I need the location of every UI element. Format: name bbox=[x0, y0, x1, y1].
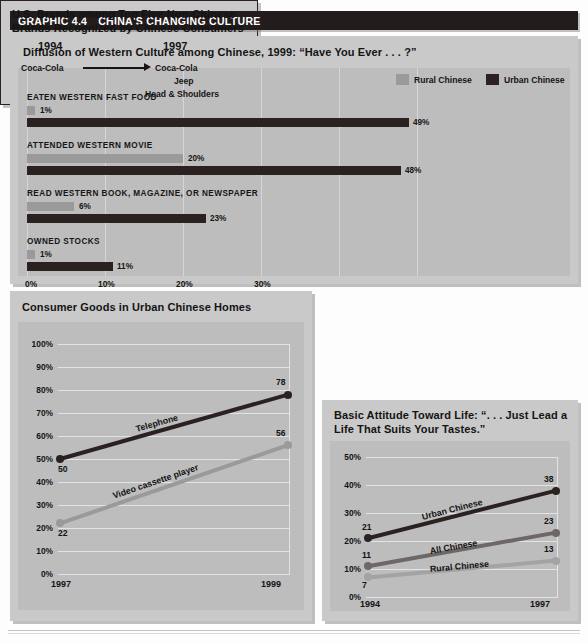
value-rural-1994: 7 bbox=[362, 580, 367, 590]
bar-category-label: OWNED STOCKS bbox=[27, 237, 100, 246]
point-telephone-start bbox=[56, 455, 64, 463]
point-telephone-end bbox=[284, 391, 292, 399]
consumer-goods-panel: Consumer Goods in Urban Chinese Homes 10… bbox=[10, 291, 312, 621]
bar-value-urban: 49% bbox=[413, 118, 429, 127]
footer-rule bbox=[8, 630, 580, 631]
bar-urban bbox=[27, 166, 401, 175]
bar-value-urban: 23% bbox=[210, 214, 226, 223]
legend-item-rural: Rural Chinese bbox=[396, 74, 472, 85]
xtick-1999: 1999 bbox=[261, 579, 281, 589]
value-urban-1994: 21 bbox=[362, 522, 372, 532]
consumer-goods-title: Consumer Goods in Urban Chinese Homes bbox=[22, 301, 251, 313]
brands-year-1997: 1997 bbox=[163, 40, 187, 52]
xtick-1997: 1997 bbox=[51, 579, 71, 589]
point-rural-1997 bbox=[552, 557, 560, 565]
arrow-line bbox=[83, 67, 145, 69]
attitude-panel: Basic Attitude Toward Life: “. . . Just … bbox=[322, 400, 578, 621]
xtick-0: 0% bbox=[25, 279, 37, 289]
brands-year-1994: 1994 bbox=[38, 40, 62, 52]
xtick-1997: 1997 bbox=[530, 599, 550, 609]
consumer-goods-plot-area: 100% 90% 80% 70% 60% 50% 40% 30% 20% 10%… bbox=[18, 322, 304, 610]
bar-urban bbox=[27, 262, 113, 271]
bar-rural bbox=[27, 106, 35, 115]
value-urban-1997: 38 bbox=[544, 474, 554, 484]
point-urban-1997 bbox=[552, 487, 560, 495]
value-vcp-1999: 56 bbox=[276, 428, 286, 438]
infographic-page: GRAPHIC 4.4 CHINA'S CHANGING CULTURE Dif… bbox=[0, 0, 588, 642]
line-telephone bbox=[60, 395, 288, 459]
bar-category-label: EATEN WESTERN FAST FOOD bbox=[27, 93, 157, 102]
bar-category-label: READ WESTERN BOOK, MAGAZINE, OR NEWSPAPE… bbox=[27, 189, 258, 198]
attitude-plot-area: 50% 40% 30% 20% 10% 0% 21 38 11 23 bbox=[330, 441, 570, 611]
value-telephone-1999: 78 bbox=[276, 377, 286, 387]
xtick-1994: 1994 bbox=[360, 599, 380, 609]
brand-right-head-and-shoulders: Head & Shoulders bbox=[145, 89, 219, 99]
bar-value-rural: 1% bbox=[40, 250, 52, 259]
arrow-head-icon bbox=[144, 63, 151, 71]
value-all-1994: 11 bbox=[362, 550, 371, 560]
legend-label-urban: Urban Chinese bbox=[504, 75, 565, 85]
brand-left-coca-cola: Coca-Cola bbox=[21, 63, 64, 73]
diffusion-chart-panel: Diffusion of Western Culture among Chine… bbox=[10, 36, 578, 284]
bar-value-rural: 20% bbox=[188, 154, 204, 163]
line-video-cassette-player bbox=[60, 445, 288, 523]
diffusion-plot-area: Rural Chinese Urban Chinese EATEN WESTER… bbox=[18, 68, 570, 276]
brand-right-coca-cola: Coca-Cola bbox=[155, 63, 198, 73]
brand-right-jeep: Jeep bbox=[174, 76, 194, 86]
bar-urban bbox=[27, 214, 206, 223]
xtick-30: 30% bbox=[254, 279, 271, 289]
value-all-1997: 23 bbox=[544, 516, 554, 526]
diffusion-chart-title: Diffusion of Western Culture among Chine… bbox=[23, 46, 417, 58]
bar-category-label: ATTENDED WESTERN MOVIE bbox=[27, 141, 153, 150]
bar-value-urban: 11% bbox=[117, 262, 133, 271]
bar-value-rural: 6% bbox=[79, 202, 91, 211]
bar-rural bbox=[27, 154, 183, 163]
bar-urban bbox=[27, 118, 409, 127]
point-all-1997 bbox=[552, 529, 560, 537]
bar-value-urban: 48% bbox=[405, 166, 421, 175]
xtick-10: 10% bbox=[98, 279, 115, 289]
footer-rule-secondary bbox=[8, 633, 580, 634]
legend-label-rural: Rural Chinese bbox=[414, 75, 472, 85]
us-brands-title: U.S. Brands among Top Five Non-Chinese B… bbox=[12, 8, 248, 35]
value-vcp-1997: 22 bbox=[58, 528, 68, 538]
bar-rural bbox=[27, 202, 74, 211]
xtick-20: 20% bbox=[176, 279, 193, 289]
bar-rural bbox=[27, 250, 35, 259]
legend-swatch-rural-icon bbox=[396, 74, 409, 85]
value-rural-1997: 13 bbox=[544, 544, 554, 554]
legend-item-urban: Urban Chinese bbox=[486, 74, 565, 85]
attitude-title: Basic Attitude Toward Life: “. . . Just … bbox=[334, 409, 568, 436]
value-telephone-1997: 50 bbox=[58, 464, 68, 474]
bar-value-rural: 1% bbox=[40, 106, 52, 115]
legend-swatch-urban-icon bbox=[486, 74, 499, 85]
line-urban-chinese bbox=[368, 491, 556, 539]
